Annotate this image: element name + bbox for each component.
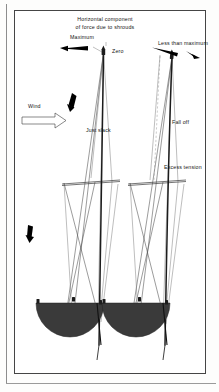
left-boat-chainplate-port xyxy=(37,299,40,304)
solid-arrow-icon-shroud-load-lower xyxy=(26,225,35,243)
left-boat-masthead-fitting xyxy=(102,46,106,56)
left-boat-chainplate-center xyxy=(72,297,75,302)
wind-arrow-icon xyxy=(22,113,66,128)
label-zero: Zero xyxy=(112,48,124,54)
left-boat-hull xyxy=(36,303,104,337)
right-boat-chainplate-port xyxy=(103,299,106,304)
left-boat-mast-foot xyxy=(97,345,99,360)
label-just-slack: Just slack xyxy=(86,127,111,133)
right-boat-shrouds xyxy=(130,55,184,324)
label-less-than-maximum: Less than maximum xyxy=(158,40,208,46)
right-boat-chainplate-center xyxy=(138,297,141,302)
figure-title-line-2: of force due to shrouds xyxy=(76,24,135,30)
figure-page: Horizontal component of force due to shr… xyxy=(0,0,219,392)
solid-arrow-icon-less-than-maximum xyxy=(152,48,200,60)
right-boat-mast-foot xyxy=(163,345,165,360)
label-maximum: Maximum xyxy=(70,34,94,40)
right-boat-group xyxy=(102,50,186,361)
label-wind: Wind xyxy=(28,103,41,109)
leader-maximum xyxy=(93,47,102,52)
label-fall-off: Fall off xyxy=(172,119,189,125)
rigging-diagram: Horizontal component of force due to shr… xyxy=(0,0,219,392)
label-excess-tension: Excess tension xyxy=(164,164,202,170)
right-boat-hull xyxy=(102,303,170,337)
solid-arrow-icon-maximum xyxy=(60,46,88,51)
right-boat-chainplate-starboard xyxy=(165,300,168,305)
solid-arrow-icon-shroud-load-upper xyxy=(67,93,77,112)
left-boat-chainplate-starboard xyxy=(99,300,102,305)
figure-title-line-1: Horizontal component xyxy=(77,16,133,22)
